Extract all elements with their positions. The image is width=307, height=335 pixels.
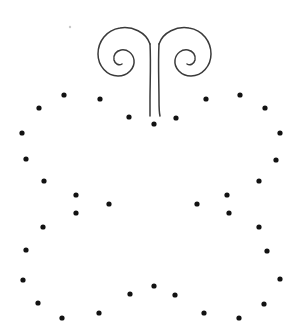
dot-bottom-arc-2 <box>59 315 64 320</box>
dot-inner-left-rib-2 <box>73 210 78 215</box>
dot-inner-right-rib-2 <box>226 210 231 215</box>
dot-top-arc-4 <box>203 96 208 101</box>
artwork-canvas <box>0 0 307 335</box>
dot-bottom-arc-6 <box>201 310 206 315</box>
dot-top-arc-3 <box>97 96 102 101</box>
dot-right-edge-2 <box>273 157 278 162</box>
dot-bottom-arc-4 <box>127 291 132 296</box>
dot-right-edge-5 <box>264 248 269 253</box>
dot-bottom-arc-3 <box>96 310 101 315</box>
dot-bottom-arc-1 <box>35 300 40 305</box>
dot-right-edge-4 <box>256 224 261 229</box>
dot-top-center-right <box>173 115 178 120</box>
dot-bottom-arc-5 <box>172 292 177 297</box>
dot-top-arc-6 <box>262 105 267 110</box>
dot-top-arc-5 <box>237 92 242 97</box>
dot-left-edge-2 <box>23 156 28 161</box>
dot-left-edge-3 <box>41 178 46 183</box>
dot-inner-right-rib-1 <box>224 192 229 197</box>
dot-bottom-arc-7 <box>236 315 241 320</box>
dot-inner-left-rib-3 <box>106 201 111 206</box>
dot-left-edge-6 <box>20 277 25 282</box>
dot-bottom-arc-8 <box>261 301 266 306</box>
dot-right-edge-6 <box>277 276 282 281</box>
dot-top-arc-1 <box>61 92 66 97</box>
dot-inner-right-rib-3 <box>194 201 199 206</box>
dot-left-edge-5 <box>23 247 28 252</box>
dot-bottom-center <box>151 283 156 288</box>
faint-speck <box>69 26 71 28</box>
dot-left-edge-1 <box>19 130 24 135</box>
dot-top-arc-2 <box>36 105 41 110</box>
dot-top-center <box>151 121 156 126</box>
dot-left-edge-4 <box>40 224 45 229</box>
dot-right-edge-1 <box>277 130 282 135</box>
dot-top-center-left <box>126 114 131 119</box>
pumpkin-dot-outline-svg <box>0 0 307 335</box>
dot-inner-left-rib-1 <box>73 192 78 197</box>
dot-right-edge-3 <box>256 178 261 183</box>
